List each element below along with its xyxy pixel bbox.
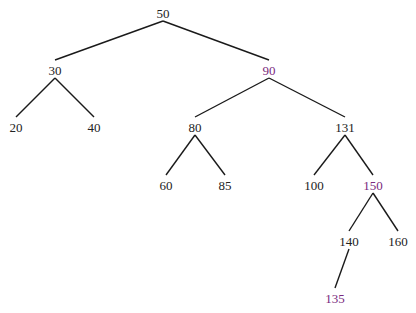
- tree-edge-50-90: [163, 21, 269, 60]
- tree-node-60: 60: [160, 178, 173, 193]
- tree-edge-90-131: [269, 78, 345, 117]
- tree-node-85: 85: [219, 178, 232, 193]
- tree-edge-50-30: [55, 21, 163, 60]
- tree-edge-30-40: [55, 78, 94, 117]
- tree-node-100: 100: [304, 178, 324, 193]
- tree-edge-140-135: [335, 249, 349, 288]
- tree-node-135: 135: [325, 291, 345, 306]
- binary-search-tree-diagram: 5030902040801316085100150140160135: [0, 0, 416, 313]
- tree-node-40: 40: [88, 120, 101, 135]
- tree-edge-90-80: [195, 78, 269, 117]
- tree-node-150: 150: [363, 178, 383, 193]
- tree-node-131: 131: [335, 120, 355, 135]
- tree-node-20: 20: [10, 120, 23, 135]
- tree-node-80: 80: [189, 120, 202, 135]
- tree-edge-80-60: [166, 135, 195, 175]
- tree-edge-80-85: [195, 135, 225, 175]
- tree-edge-131-150: [345, 135, 373, 175]
- tree-node-30: 30: [49, 63, 62, 78]
- tree-edge-150-140: [349, 193, 373, 231]
- tree-edge-150-160: [373, 193, 398, 231]
- tree-node-50: 50: [157, 6, 170, 21]
- tree-nodes: 5030902040801316085100150140160135: [10, 6, 408, 306]
- tree-edge-131-100: [314, 135, 345, 175]
- tree-node-90: 90: [263, 63, 276, 78]
- tree-node-140: 140: [339, 234, 359, 249]
- tree-node-160: 160: [388, 234, 408, 249]
- tree-edge-30-20: [16, 78, 55, 117]
